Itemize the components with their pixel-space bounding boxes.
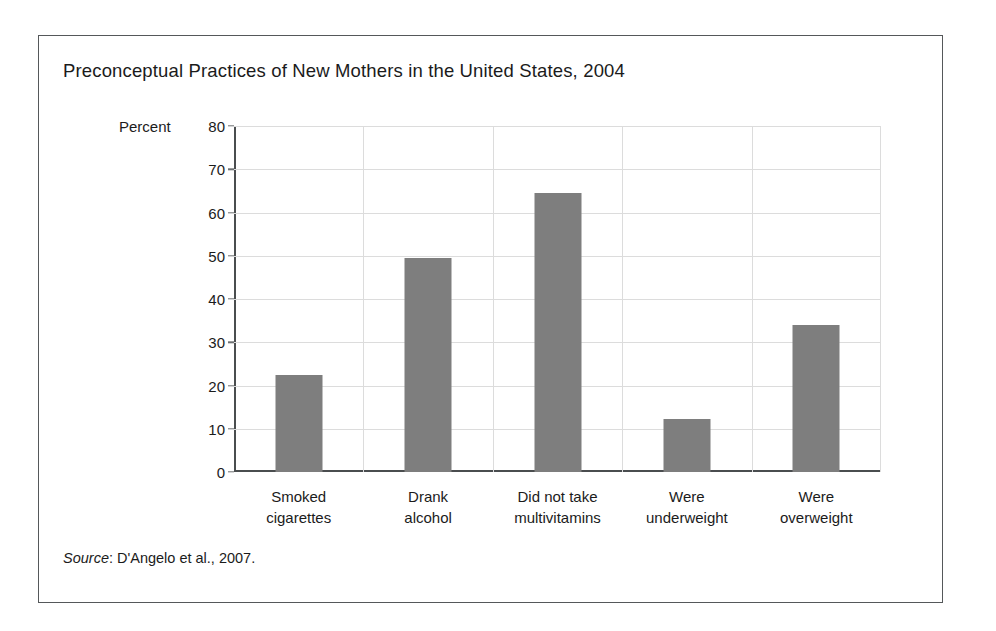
x-category-label: Did not takemultivitamins — [514, 486, 601, 528]
y-tick-label: 0 — [217, 464, 225, 481]
x-category-label-line: multivitamins — [514, 507, 601, 528]
x-category-label-line: Were — [646, 486, 728, 507]
source-label: Source — [63, 550, 109, 566]
chart-title: Preconceptual Practices of New Mothers i… — [63, 60, 625, 82]
y-tick-label: 20 — [208, 377, 225, 394]
x-category-label-line: Did not take — [514, 486, 601, 507]
x-category-label-line: cigarettes — [266, 507, 331, 528]
x-category-label-line: underweight — [646, 507, 728, 528]
y-tick-label: 40 — [208, 291, 225, 308]
plot-area: 01020304050607080 SmokedcigarettesDranka… — [234, 126, 881, 472]
x-category-label: Drankalcohol — [404, 486, 452, 528]
source-note: Source: D'Angelo et al., 2007. — [63, 550, 255, 566]
y-tick-label: 50 — [208, 247, 225, 264]
bar — [275, 375, 322, 472]
bar — [793, 325, 840, 472]
x-category-label: Wereoverweight — [780, 486, 853, 528]
x-category-label-line: Were — [780, 486, 853, 507]
y-tick-label: 10 — [208, 420, 225, 437]
bars-layer — [234, 126, 881, 472]
x-category-label-line: overweight — [780, 507, 853, 528]
y-tick-label: 80 — [208, 118, 225, 135]
source-text: D'Angelo et al., 2007. — [117, 550, 255, 566]
y-tick-label: 60 — [208, 204, 225, 221]
bar — [534, 193, 581, 472]
y-axis-caption: Percent — [119, 118, 171, 135]
x-category-label-line: Drank — [404, 486, 452, 507]
y-tick-label: 70 — [208, 161, 225, 178]
x-category-label: Smokedcigarettes — [266, 486, 331, 528]
x-category-label-line: Smoked — [266, 486, 331, 507]
x-category-label-line: alcohol — [404, 507, 452, 528]
y-tick-label: 30 — [208, 334, 225, 351]
source-separator: : — [109, 550, 117, 566]
x-category-label: Wereunderweight — [646, 486, 728, 528]
bar — [405, 258, 452, 472]
bar — [663, 419, 710, 472]
figure-frame: Preconceptual Practices of New Mothers i… — [38, 35, 943, 603]
